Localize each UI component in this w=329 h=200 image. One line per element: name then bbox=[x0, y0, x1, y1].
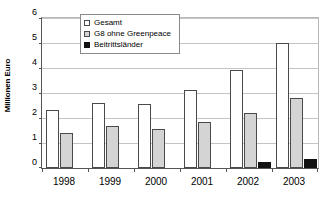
x-tick-label: 2002 bbox=[225, 176, 271, 188]
y-axis-title-label: Millionen Euro bbox=[4, 58, 13, 112]
x-tick-label: 2003 bbox=[271, 176, 317, 188]
black-square-swatch-icon bbox=[84, 42, 90, 48]
bar-gesamt-1999 bbox=[92, 103, 105, 169]
chart-legend: Gesamt G8 ohne Greenpeace Beitrittslände… bbox=[80, 14, 180, 54]
bar-g8-ohne-greenpeace-2001 bbox=[198, 122, 211, 168]
y-tick-label: 0 bbox=[17, 158, 37, 167]
x-tick-mark bbox=[134, 168, 135, 172]
bar-gesamt-2001 bbox=[184, 90, 197, 168]
bar-beitrittslaender-2003 bbox=[304, 159, 317, 168]
x-tick-label: 2000 bbox=[133, 176, 179, 188]
x-tick-mark bbox=[272, 168, 273, 172]
bar-chart: Millionen Euro 6 5 4 3 2 1 0 bbox=[0, 0, 329, 200]
bar-gesamt-1998 bbox=[46, 110, 59, 168]
bar-g8-ohne-greenpeace-2003 bbox=[290, 98, 303, 168]
x-tick-mark bbox=[180, 168, 181, 172]
y-tick-label: 2 bbox=[17, 108, 37, 117]
bar-group bbox=[272, 18, 318, 168]
legend-item-g8-ohne-greenpeace: G8 ohne Greenpeace bbox=[84, 28, 176, 39]
y-tick-label: 5 bbox=[17, 33, 37, 42]
legend-item-label: Gesamt bbox=[94, 18, 122, 27]
bar-g8-ohne-greenpeace-1998 bbox=[60, 133, 73, 168]
y-tick-label: 1 bbox=[17, 133, 37, 142]
open-square-swatch-icon bbox=[84, 20, 90, 26]
x-tick-mark bbox=[88, 168, 89, 172]
y-tick-label: 4 bbox=[17, 58, 37, 67]
x-tick-mark bbox=[42, 168, 43, 172]
x-tick-label: 1999 bbox=[87, 176, 133, 188]
y-axis-tick-labels: 6 5 4 3 2 1 0 bbox=[16, 12, 40, 168]
legend-item-beitrittslaender: Beitrittsländer bbox=[84, 39, 176, 50]
bar-group bbox=[226, 18, 272, 168]
bar-gesamt-2000 bbox=[138, 104, 151, 169]
x-tick-mark bbox=[317, 168, 318, 172]
bar-gesamt-2003 bbox=[276, 43, 289, 168]
bar-g8-ohne-greenpeace-2000 bbox=[152, 129, 165, 169]
x-tick-mark bbox=[226, 168, 227, 172]
bar-gesamt-2002 bbox=[230, 70, 243, 168]
y-tick-label: 6 bbox=[17, 8, 37, 17]
legend-item-label: Beitrittsländer bbox=[94, 40, 143, 49]
legend-item-label: G8 ohne Greenpeace bbox=[94, 29, 171, 38]
x-axis-tick-labels: 1998 1999 2000 2001 2002 2003 bbox=[41, 176, 319, 192]
bar-g8-ohne-greenpeace-2002 bbox=[244, 113, 257, 168]
bar-g8-ohne-greenpeace-1999 bbox=[106, 126, 119, 168]
bar-group bbox=[180, 18, 226, 168]
y-tick-label: 3 bbox=[17, 83, 37, 92]
x-tick-label: 2001 bbox=[179, 176, 225, 188]
gray-square-swatch-icon bbox=[84, 31, 90, 37]
bar-beitrittslaender-2002 bbox=[258, 162, 271, 168]
y-axis-title: Millionen Euro bbox=[0, 0, 16, 170]
legend-item-gesamt: Gesamt bbox=[84, 17, 176, 28]
x-tick-label: 1998 bbox=[41, 176, 87, 188]
